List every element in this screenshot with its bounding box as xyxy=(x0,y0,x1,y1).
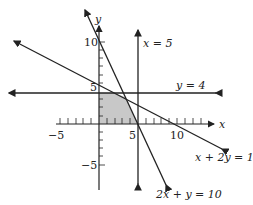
tick-label-y-10: 10 xyxy=(84,36,98,49)
tick-label-y-5: 5 xyxy=(90,81,97,94)
label-x-plus-2y: x + 2y = 10 xyxy=(195,151,253,164)
label-x-equals-5: x = 5 xyxy=(143,37,172,50)
label-y-equals-4: y = 4 xyxy=(175,79,205,92)
tick-label-x-5: 5 xyxy=(129,129,136,142)
y-axis-label: y xyxy=(94,13,102,26)
tick-label-x-neg5: −5 xyxy=(48,129,64,142)
x-axis-label: x xyxy=(219,118,226,131)
feasible-region xyxy=(99,93,138,124)
tick-label-y-neg5: −5 xyxy=(81,159,97,172)
tick-label-x-10: 10 xyxy=(170,129,184,142)
label-2x-plus-y: 2x + y = 10 xyxy=(155,188,222,201)
linear-inequality-graph: y x −5 5 10 10 5 −5 x = 5 y = 4 x + 2y =… xyxy=(0,0,253,205)
line-x-plus-2y-equals-10 xyxy=(14,41,222,149)
